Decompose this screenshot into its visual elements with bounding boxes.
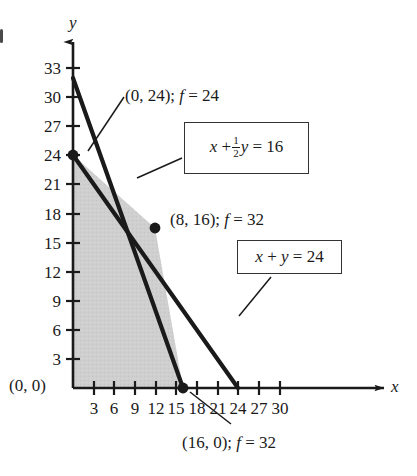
- y-tick-label-6: 6: [42, 322, 61, 339]
- fraction-one-half: 12: [232, 135, 240, 158]
- origin-label: (0, 0): [9, 377, 46, 394]
- x-tick-label-30: 30: [267, 400, 293, 417]
- y-tick-label-21: 21: [33, 176, 61, 193]
- annotation-point-16-0-value: = 32: [245, 433, 276, 452]
- equation-sum-plus: +: [267, 247, 277, 266]
- annotation-point-8-16: (8, 16); f = 32: [170, 211, 264, 228]
- y-tick-label-30: 30: [33, 89, 61, 106]
- y-tick-label-9: 9: [42, 293, 61, 310]
- equation-half-rhs: = 16: [252, 137, 283, 156]
- annotation-point-16-0-coords: (16, 0);: [182, 433, 232, 452]
- equation-box-x-plus-y: x + y = 24: [237, 240, 342, 274]
- y-axis-label: y: [69, 14, 77, 31]
- equation-sum-rhs: = 24: [293, 247, 324, 266]
- fraction-numerator: 1: [232, 135, 240, 146]
- y-tick-label-15: 15: [33, 235, 61, 252]
- y-tick-label-12: 12: [33, 264, 61, 281]
- vertex-point-16-0: [178, 383, 189, 394]
- equation-half-content: x +12y = 16: [210, 136, 284, 159]
- annotation-point-16-0: (16, 0); f = 32: [182, 434, 276, 451]
- equation-sum-content: x + y = 24: [255, 247, 323, 267]
- y-tick-label-3: 3: [42, 351, 61, 368]
- annotation-point-0-24-coords: (0, 24);: [125, 86, 175, 105]
- vertex-point-0-24: [68, 150, 79, 161]
- annotation-point-8-16-coords: (8, 16);: [170, 210, 220, 229]
- equation-half-plus: +: [222, 137, 232, 156]
- y-tick-label-33: 33: [33, 60, 61, 77]
- page-edge-artifact: [0, 29, 3, 43]
- leader-line-box-half: [137, 158, 182, 178]
- leader-line-box-sum: [239, 277, 271, 316]
- y-tick-label-18: 18: [33, 206, 61, 223]
- equation-sum-y: y: [281, 247, 289, 266]
- equation-sum-x: x: [255, 247, 263, 266]
- leader-line-point-0-24: [88, 97, 124, 151]
- feasible-region-shading: [73, 155, 183, 388]
- annotation-point-0-24: (0, 24); f = 24: [125, 87, 219, 104]
- annotation-point-0-24-value: = 24: [188, 86, 219, 105]
- x-axis-label: x: [391, 378, 399, 395]
- equation-box-x-plus-half-y: x +12y = 16: [184, 122, 309, 174]
- fraction-denominator: 2: [232, 147, 240, 159]
- vertex-point-8-16: [150, 223, 161, 234]
- y-tick-label-27: 27: [33, 118, 61, 135]
- y-tick-label-24: 24: [33, 147, 61, 164]
- annotation-point-8-16-value: = 32: [233, 210, 264, 229]
